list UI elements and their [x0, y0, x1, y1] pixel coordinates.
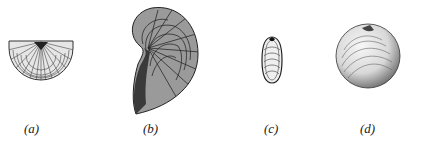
shell-c-illustration [260, 36, 284, 84]
shell-c-figure [260, 36, 284, 84]
panel-label-a: (a) [24, 122, 39, 135]
shell-a-illustration [8, 40, 74, 82]
shell-d-illustration [334, 22, 402, 90]
shell-a-figure [8, 40, 74, 82]
panel-label-d: (d) [360, 122, 375, 135]
panel-label-b: (b) [143, 122, 158, 135]
shell-b-illustration [118, 4, 200, 116]
panel-label-c: (c) [264, 122, 278, 135]
shell-d-figure [334, 22, 402, 90]
shell-b-figure [118, 4, 200, 116]
